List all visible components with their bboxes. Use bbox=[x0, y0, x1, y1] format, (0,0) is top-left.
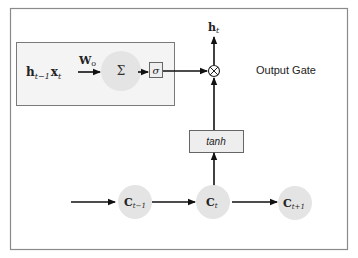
gate-title: Output Gate bbox=[256, 64, 316, 76]
tanh-label: tanh bbox=[206, 136, 226, 147]
output-gate-diagram: ht−1xt Wo Σ σ ht Output Gate tanh Ct−1 C bbox=[0, 0, 358, 258]
sum-symbol: Σ bbox=[117, 64, 125, 78]
sigmoid-symbol: σ bbox=[153, 65, 161, 76]
